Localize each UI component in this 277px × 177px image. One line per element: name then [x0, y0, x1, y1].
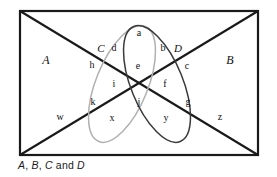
- region-label-e: e: [136, 61, 140, 71]
- region-label-a: a: [137, 28, 141, 38]
- region-label-h: h: [90, 60, 95, 70]
- region-label-k: k: [91, 97, 96, 107]
- region-label-d: d: [112, 43, 117, 53]
- region-label-w: w: [56, 112, 63, 122]
- caption-conjunction: and: [56, 159, 74, 171]
- region-label-c: c: [185, 61, 189, 71]
- set-label-b: B: [226, 54, 233, 66]
- set-label-a: A: [42, 54, 49, 66]
- region-label-i: i: [113, 79, 116, 89]
- region-label-y: y: [164, 113, 169, 123]
- region-label-f: f: [163, 79, 166, 89]
- caption-set-a: A: [18, 159, 25, 171]
- set-label-c: C: [97, 43, 104, 54]
- figure-caption: A, B, C and D: [18, 159, 85, 171]
- set-label-d: D: [174, 43, 182, 54]
- region-label-g: g: [186, 97, 191, 107]
- region-label-z: z: [218, 112, 222, 122]
- caption-set-c: C: [45, 159, 53, 171]
- region-label-j: j: [138, 97, 141, 107]
- caption-set-d: D: [77, 159, 85, 171]
- caption-set-b: B: [31, 159, 38, 171]
- venn-diagram-figure: A B C D a d b h e c i f k j g w x y z A,…: [0, 0, 277, 177]
- region-label-b: b: [161, 43, 166, 53]
- region-label-x: x: [110, 113, 115, 123]
